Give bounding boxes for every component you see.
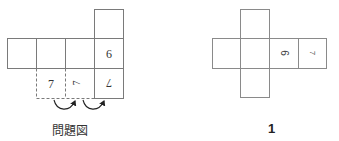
label-6-rotated: 6	[279, 50, 290, 56]
net-cell-bottom	[241, 69, 270, 98]
net-cell-row-1	[213, 39, 241, 69]
label-7-dashed-rotated: 7	[71, 81, 82, 86]
label-6: 6	[106, 47, 112, 61]
curved-arrow-icon	[83, 100, 104, 109]
curved-arrow-icon	[54, 100, 75, 109]
label-7-rotated: 7	[308, 51, 317, 56]
caption-option-1: 1	[268, 121, 275, 136]
net-cell-top	[241, 10, 270, 39]
net-cell-row-2	[241, 39, 270, 69]
rotation-arrows	[54, 100, 104, 109]
net-cell-row-3	[66, 39, 95, 69]
label-7-solid-inverted: 7	[106, 76, 112, 90]
cube-net-diagram: 6 7 7 7 6 7 問題図 1	[0, 0, 339, 141]
net-cell-top	[95, 10, 124, 39]
net-cell-row-1	[8, 39, 37, 69]
label-7-dashed-upright: 7	[48, 77, 54, 91]
dashed-cell-outline	[37, 69, 95, 99]
caption-problem-figure: 問題図	[52, 121, 88, 138]
net-cell-row-2	[37, 39, 66, 69]
diagram-canvas: 6 7 7 7 6 7	[0, 0, 339, 141]
